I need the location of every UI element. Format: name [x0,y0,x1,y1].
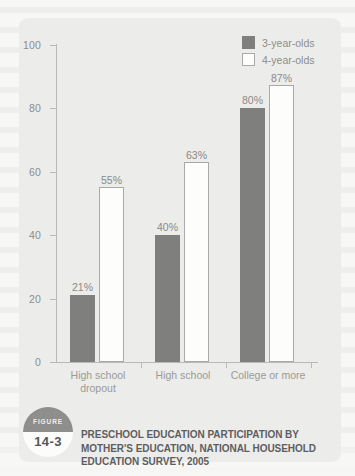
category-label-high-school: High school [156,369,211,382]
bar-hs-dropout-3-year-olds: 21% [70,295,95,362]
y-axis-line [56,44,57,363]
y-tick-100: 100 [50,45,56,46]
y-tick-label-20: 20 [29,293,41,305]
y-tick-label-80: 80 [29,102,41,114]
bar-group-high-school: 40% 63% High school [155,44,212,362]
category-label-college-or-more: College or more [231,369,306,382]
figure-badge-word: FIGURE [23,418,73,425]
bar-hs-dropout-4-year-olds: 55% [99,187,124,362]
y-tick-80: 80 [50,108,56,109]
figure-page: 3-year-olds 4-year-olds 0 20 40 60 80 10… [0,0,355,476]
figure-caption: Preschool education participation by mot… [81,428,333,469]
x-tick-1 [226,363,227,368]
y-tick-label-100: 100 [23,39,41,51]
chart-plot-area: 0 20 40 60 80 100 21% 55% [56,44,318,363]
y-tick-label-0: 0 [35,356,41,368]
bar-value-hs-3: 40% [157,221,178,233]
bar-college-4-year-olds: 87% [269,85,294,362]
x-tick-0 [141,363,142,368]
bar-value-hs-dropout-4: 55% [101,174,122,186]
category-label-line1: College or more [231,369,306,382]
bar-value-college-4: 87% [271,72,292,84]
x-tick-2 [311,363,312,368]
figure-badge-number: 14-3 [23,434,73,449]
y-tick-label-40: 40 [29,229,41,241]
y-tick-label-60: 60 [29,166,41,178]
category-label-line1: High school [156,369,211,382]
category-label-high-school-dropout: High school dropout [71,369,126,394]
category-label-line1: High school [71,369,126,382]
bar-value-college-3: 80% [242,94,263,106]
y-tick-20: 20 [50,299,56,300]
x-axis-line [56,362,318,363]
y-tick-40: 40 [50,235,56,236]
bar-hs-3-year-olds: 40% [155,235,180,362]
figure-number-badge: FIGURE 14-3 [23,407,73,457]
bar-college-3-year-olds: 80% [240,108,265,362]
category-label-line2: dropout [71,382,126,395]
y-tick-0: 0 [50,362,56,363]
y-tick-60: 60 [50,172,56,173]
bar-group-high-school-dropout: 21% 55% High school dropout [70,44,127,362]
bar-value-hs-4: 63% [186,149,207,161]
bar-hs-4-year-olds: 63% [184,162,209,362]
bar-group-college-or-more: 80% 87% College or more [240,44,297,362]
bar-value-hs-dropout-3: 21% [72,281,93,293]
